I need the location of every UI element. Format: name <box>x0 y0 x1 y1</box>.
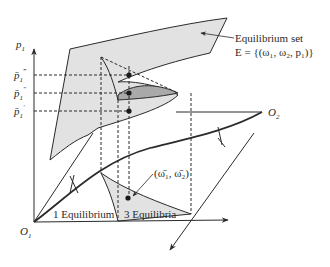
price-level-label-2: p̄1″ <box>13 85 26 102</box>
region-one-equilibrium-label: 1 Equilibrium <box>53 208 115 220</box>
price-level-label-3: p̄1′ <box>13 103 25 120</box>
origin-2-label: O2 <box>268 106 280 121</box>
equilibrium-set-title: Equilibrium set <box>235 32 303 44</box>
point-label: (ω̄₁, ω̄₂) <box>154 167 189 180</box>
tick-marks <box>70 127 225 193</box>
point-pointer <box>133 174 153 196</box>
origin-1-label: O1 <box>20 225 31 240</box>
equilibrium-diagram: p1 p̄1‴ p̄1″ p̄1′ O1 O2 Equilibrium set … <box>0 0 330 267</box>
price-level-label-1: p̄1‴ <box>13 67 27 84</box>
omega2-axis <box>170 133 254 250</box>
p1-axis-label: p1 <box>15 38 25 53</box>
equilibrium-surface <box>50 18 227 160</box>
equilibrium-set-formula: E = {(ω₁, ω₂, p₁)} <box>235 46 314 59</box>
region-three-equilibria-label: 3 Equilibria <box>124 208 176 220</box>
